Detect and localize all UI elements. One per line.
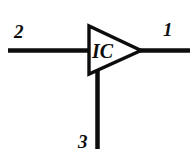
- ic-body-label: IC: [91, 40, 114, 62]
- pin-3-number-label: 3: [78, 132, 88, 151]
- pin-2-number-label: 2: [14, 22, 24, 41]
- pin-1-number-label: 1: [163, 20, 173, 39]
- schematic-canvas: IC 2 1 3: [0, 0, 196, 165]
